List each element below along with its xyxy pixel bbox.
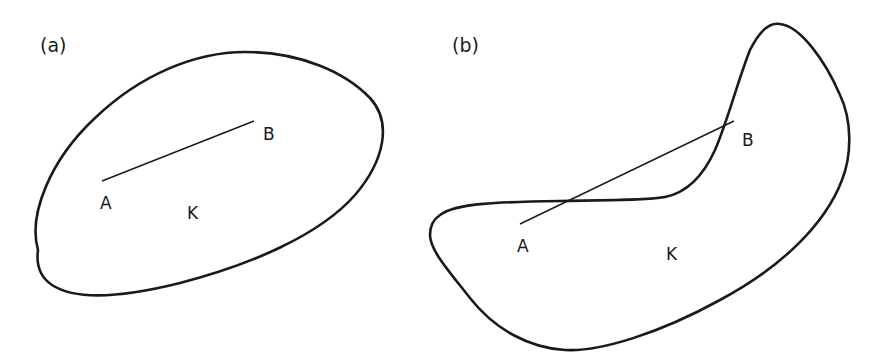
- panel-a-label: (a): [40, 34, 66, 56]
- nonconvex-set-boundary: [430, 24, 849, 350]
- figure-canvas: (a) A B K (b) A B K: [0, 0, 877, 362]
- panel-b: (b) A B K: [430, 24, 849, 350]
- convexity-figure: (a) A B K (b) A B K: [0, 0, 877, 362]
- segment-ab: [102, 121, 254, 181]
- set-k-label: K: [187, 203, 199, 223]
- point-b-label: B: [742, 130, 754, 150]
- panel-a: (a) A B K: [36, 34, 383, 295]
- point-a-label: A: [517, 236, 529, 256]
- convex-set-boundary: [36, 52, 383, 295]
- point-b-label: B: [263, 124, 275, 144]
- set-k-label: K: [666, 244, 678, 264]
- panel-b-label: (b): [452, 34, 479, 56]
- point-a-label: A: [100, 193, 112, 213]
